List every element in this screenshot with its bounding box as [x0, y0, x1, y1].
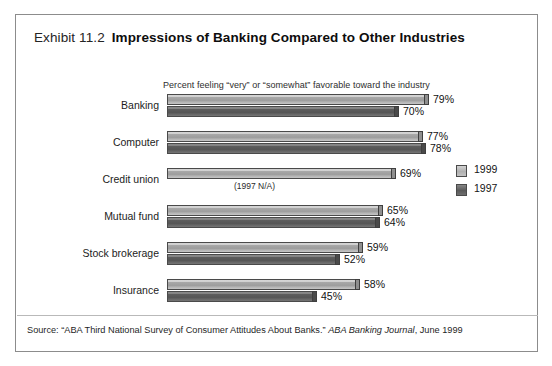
page-title: Exhibit 11.2Impressions of Banking Compa… [34, 30, 465, 45]
category-label: Stock brokerage [16, 247, 159, 259]
legend-swatch-icon [456, 165, 467, 177]
bar-cap [391, 168, 396, 179]
bar-1999 [167, 168, 396, 179]
bar-body [167, 94, 425, 105]
category-label: Mutual fund [16, 210, 159, 222]
bar-body [167, 291, 313, 302]
chart-row-stock-brokerage: Stock brokerage 59% 52% [16, 241, 539, 270]
exhibit-frame: Exhibit 11.2Impressions of Banking Compa… [15, 14, 538, 352]
bar-cap [424, 94, 429, 105]
bar-body [167, 205, 379, 216]
bar-cap [355, 279, 360, 290]
bar-group: 77% 78% [167, 130, 539, 159]
bar-group: 65% 64% [167, 204, 539, 233]
bar-group: 58% 45% [167, 278, 539, 307]
bar-body [167, 143, 422, 154]
bar-value-1999: 58% [364, 278, 385, 290]
bar-value-1999: 59% [367, 241, 388, 253]
category-label: Computer [16, 136, 159, 148]
bar-1999 [167, 279, 360, 290]
bar-body [167, 217, 376, 228]
bar-1997 [167, 254, 340, 265]
bar-value-1999: 69% [400, 167, 421, 179]
bar-cap [312, 291, 317, 302]
legend-label: 1997 [474, 182, 497, 194]
exhibit-title-text: Impressions of Banking Compared to Other… [112, 30, 465, 45]
category-label: Banking [16, 99, 159, 111]
legend-swatch-icon [456, 184, 467, 196]
bar-cap [358, 242, 363, 253]
bar-body [167, 168, 392, 179]
bar-1997 [167, 291, 317, 302]
source-text-suffix: , June 1999 [415, 325, 463, 335]
bar-value-1997: 70% [403, 105, 424, 117]
bar-value-1997: 64% [384, 216, 405, 228]
bar-1997 [167, 217, 380, 228]
source-divider [17, 315, 538, 316]
bar-1999 [167, 131, 423, 142]
source-journal-name: ABA Banking Journal [328, 325, 414, 335]
bar-cap [335, 254, 340, 265]
category-label: Credit union [16, 173, 159, 185]
bar-value-1999: 77% [427, 130, 448, 142]
bar-cap [418, 131, 423, 142]
bar-cap [421, 143, 426, 154]
source-note: Source: “ABA Third National Survey of Co… [27, 325, 463, 335]
bar-1997 [167, 143, 426, 154]
credit-union-na-note: (1997 N/A) [234, 181, 275, 191]
category-label: Insurance [16, 284, 159, 296]
chart-row-computer: Computer 77% 78% [16, 130, 539, 159]
bar-body [167, 106, 395, 117]
bar-1999 [167, 205, 383, 216]
chart-row-mutual-fund: Mutual fund 65% 64% [16, 204, 539, 233]
bar-body [167, 242, 359, 253]
bar-value-1997: 45% [321, 290, 342, 302]
source-text-prefix: Source: “ABA Third National Survey of Co… [27, 325, 328, 335]
bar-body [167, 279, 356, 290]
bar-body [167, 131, 419, 142]
bar-value-1997: 52% [344, 253, 365, 265]
chart-subtitle: Percent feeling “very” or “somewhat” fav… [163, 80, 430, 90]
bar-value-1999: 65% [387, 204, 408, 216]
bar-value-1997: 78% [430, 142, 451, 154]
bar-body [167, 254, 336, 265]
legend-label: 1999 [474, 163, 497, 175]
bar-1999 [167, 94, 429, 105]
bar-group: 79% 70% [167, 93, 539, 122]
chart-plot-area: Banking 79% 70% Computer [16, 93, 539, 308]
chart-row-insurance: Insurance 58% 45% [16, 278, 539, 307]
bar-cap [378, 205, 383, 216]
bar-group: 59% 52% [167, 241, 539, 270]
chart-row-banking: Banking 79% 70% [16, 93, 539, 122]
bar-value-1999: 79% [433, 93, 454, 105]
bar-cap [375, 217, 380, 228]
bar-1999 [167, 242, 363, 253]
bar-1997 [167, 106, 399, 117]
bar-cap [394, 106, 399, 117]
exhibit-number: Exhibit 11.2 [34, 30, 105, 45]
